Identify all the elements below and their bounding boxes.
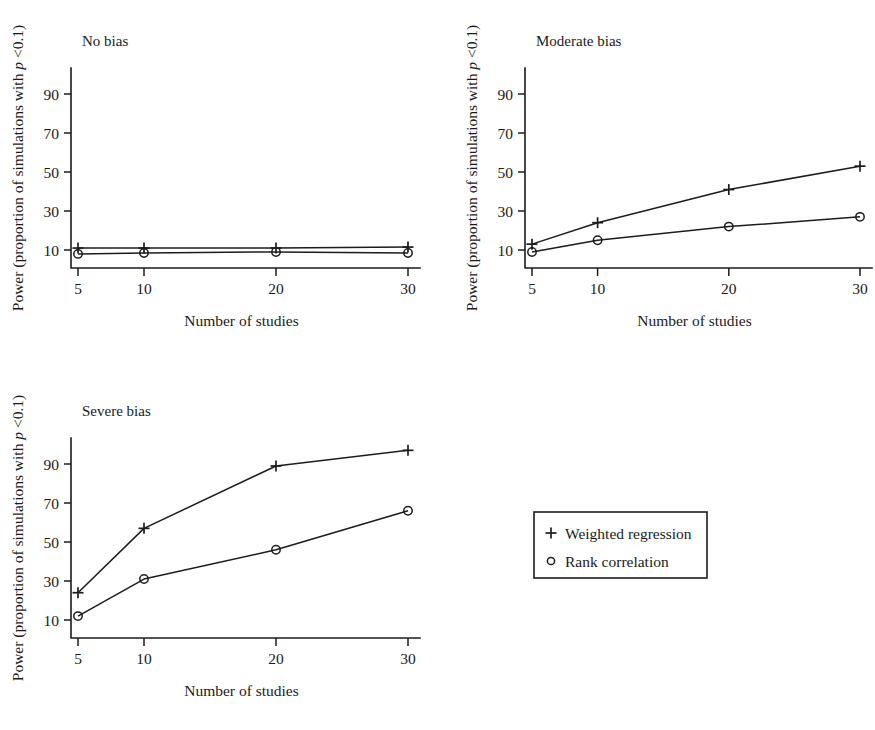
figure-root: 10305070905102030No biasNumber of studie… [0, 0, 875, 730]
y-tick-label: 30 [44, 573, 60, 590]
y-tick-label: 70 [498, 125, 514, 142]
x-axis-title: Number of studies [637, 312, 752, 329]
series-line-weighted-regression [532, 166, 860, 244]
y-tick-label: 10 [44, 612, 60, 629]
y-tick-label: 90 [44, 86, 60, 103]
y-axis-title: Power (proportion of simulations with p … [9, 395, 27, 681]
axis-lines [71, 68, 420, 268]
y-tick-label: 90 [44, 456, 60, 473]
panel-title: No bias [82, 33, 128, 49]
panel-no-bias: 10305070905102030No biasNumber of studie… [9, 25, 420, 329]
x-tick-label: 30 [852, 280, 868, 297]
x-tick-label: 20 [721, 280, 737, 297]
x-tick-label: 5 [528, 280, 536, 297]
legend: Weighted regressionRank correlation [534, 512, 707, 578]
plus-marker [592, 217, 603, 228]
y-axis-title: Power (proportion of simulations with p … [9, 25, 27, 311]
series-line-weighted-regression [78, 247, 408, 248]
panel-moderate-bias: 10305070905102030Moderate biasNumber of … [463, 25, 872, 329]
x-tick-label: 30 [400, 280, 416, 297]
y-axis-title: Power (proportion of simulations with p … [463, 25, 481, 311]
x-tick-label: 5 [74, 280, 82, 297]
x-tick-label: 10 [136, 280, 152, 297]
x-tick-label: 30 [400, 650, 416, 667]
y-tick-label: 30 [498, 203, 514, 220]
axis-lines [525, 68, 872, 268]
y-tick-label: 50 [44, 164, 60, 181]
panel-title: Moderate bias [536, 33, 622, 49]
y-tick-label: 50 [44, 534, 60, 551]
series-line-weighted-regression [78, 450, 408, 592]
y-tick-label: 70 [44, 125, 60, 142]
y-tick-label: 10 [44, 242, 60, 259]
series-line-rank-correlation [532, 217, 860, 252]
y-tick-label: 10 [498, 242, 514, 259]
y-tick-label: 70 [44, 495, 60, 512]
y-tick-label: 50 [498, 164, 514, 181]
series-line-rank-correlation [78, 252, 408, 254]
y-tick-label: 30 [44, 203, 60, 220]
x-tick-label: 20 [268, 650, 284, 667]
x-axis-title: Number of studies [184, 312, 299, 329]
x-tick-label: 20 [268, 280, 284, 297]
series-line-rank-correlation [78, 511, 408, 616]
x-axis-title: Number of studies [184, 682, 299, 699]
plus-marker [855, 161, 866, 172]
panel-title: Severe bias [82, 403, 151, 419]
plus-marker [271, 460, 282, 471]
plus-marker [723, 184, 734, 195]
axis-lines [71, 438, 420, 638]
plus-marker [403, 445, 414, 456]
x-tick-label: 10 [590, 280, 606, 297]
panel-severe-bias: 10305070905102030Severe biasNumber of st… [9, 395, 420, 699]
legend-label: Rank correlation [565, 553, 669, 570]
y-tick-label: 90 [498, 86, 514, 103]
figure-canvas: 10305070905102030No biasNumber of studie… [0, 0, 875, 730]
legend-label: Weighted regression [565, 525, 692, 542]
x-tick-label: 10 [136, 650, 152, 667]
x-tick-label: 5 [74, 650, 82, 667]
